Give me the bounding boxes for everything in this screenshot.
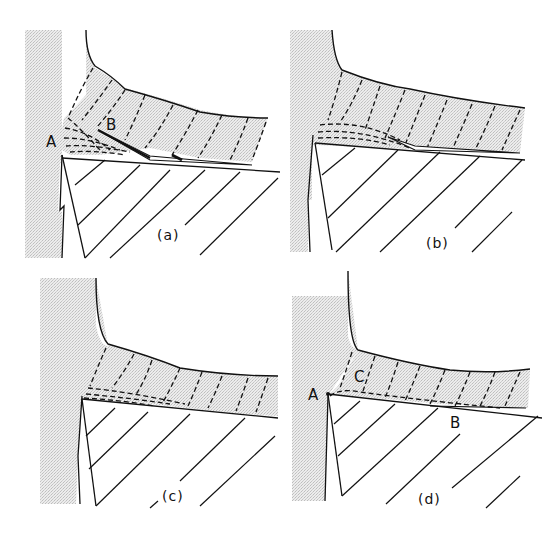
chip-formation-diagram-b [280,0,560,266]
panel-a: A B (a) [0,0,280,266]
point-label-a: A [308,388,318,403]
panel-caption-d: (d) [418,492,441,506]
point-label-b: B [450,416,460,431]
panel-caption-c: (c) [162,489,184,503]
chip-formation-diagram-c [0,266,280,532]
point-label-b: B [106,118,116,133]
panel-d: A C B (d) [280,266,560,532]
panel-b: (b) [280,0,560,266]
panel-caption-a: (a) [157,228,180,242]
panel-caption-b: (b) [426,236,449,250]
point-label-a: A [46,135,56,150]
panel-c: (c) [0,266,280,532]
chip-formation-diagram-a [0,0,280,266]
point-label-c: C [354,370,364,385]
